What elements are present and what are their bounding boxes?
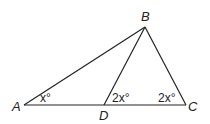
point-label-b: B bbox=[141, 9, 150, 24]
angle-label-bdc: 2x° bbox=[112, 91, 130, 105]
angle-label-c: 2x° bbox=[158, 91, 176, 105]
angle-label-a: x° bbox=[40, 91, 51, 105]
point-label-c: C bbox=[188, 99, 198, 114]
point-label-d: D bbox=[99, 108, 108, 123]
point-label-a: A bbox=[11, 99, 21, 114]
triangle-diagram: B A D C x° 2x° 2x° bbox=[0, 0, 210, 124]
diagram-svg: B A D C x° 2x° 2x° bbox=[0, 0, 210, 124]
